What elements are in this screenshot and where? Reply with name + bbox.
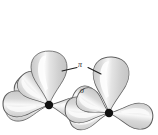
orbital-diagram-figure: π σ [0,0,158,135]
left-atom [45,101,53,109]
right-atom [105,109,113,117]
sigma-bond-label: σ [80,87,84,95]
pi-bond-label: π [78,61,82,69]
right-lobe-right [108,100,154,130]
